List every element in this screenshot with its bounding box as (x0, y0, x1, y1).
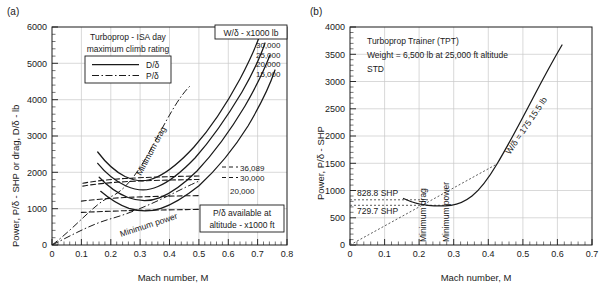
legend-title-line1: Turboprop - ISA day (90, 32, 167, 42)
y-tick-label: 0 (340, 240, 345, 250)
legend-title-line2: maximum climb rating (87, 44, 170, 54)
y-tick-label: 1000 (27, 204, 47, 214)
chart-panel-b: (b) Power, P/δ - SHP Mach number, M (303, 0, 606, 293)
panel-b-x-ticks (350, 239, 592, 245)
curve-power-required (404, 45, 563, 206)
panel-b-y-ticks (350, 27, 356, 245)
x-tick-label: 0.2 (413, 249, 426, 259)
x-tick-label: 0.1 (75, 249, 88, 259)
power-label: 30,000 (240, 174, 265, 183)
figure-container: (a) Power, P/δ - SHP or drag, D/δ - lb M… (0, 0, 606, 293)
y-tick-label: 4000 (325, 22, 345, 32)
drag-label: 30,000 (256, 41, 281, 50)
panel-a-y-tick-labels: 0 1000 2000 3000 4000 5000 6000 (27, 22, 47, 250)
title-line3: STD (367, 64, 384, 74)
y-tick-label: 5000 (27, 59, 47, 69)
panel-b-x-tick-labels: 0 0.1 0.2 0.3 0.4 0.5 0.6 0.7 (347, 249, 598, 259)
y-tick-label: 3000 (325, 77, 345, 87)
panel-a-x-tick-labels: 0 0.1 0.2 0.3 0.4 0.5 0.6 0.7 0.8 (49, 249, 293, 259)
panel-a-plot: 0 1000 2000 3000 4000 5000 6000 0 0.1 0.… (0, 0, 303, 270)
shp-upper-label: 828.8 SHP (357, 188, 398, 198)
y-tick-label: 1000 (325, 186, 345, 196)
panel-a-y-ticks (52, 27, 58, 245)
x-tick-label: 0.6 (551, 249, 564, 259)
y-tick-label: 2500 (325, 104, 345, 114)
panel-b-plot: 0 500 1000 1500 2000 2500 3000 3500 4000… (303, 0, 606, 270)
x-tick-label: 0.6 (222, 249, 235, 259)
x-tick-label: 0.7 (586, 249, 599, 259)
panel-a-legend: Turboprop - ISA day maximum climb rating… (85, 32, 171, 83)
panel-b-y-tick-labels: 0 500 1000 1500 2000 2500 3000 3500 4000 (325, 22, 345, 250)
x-tick-label: 0.1 (378, 249, 391, 259)
title-line2: Weight = 6,500 lb at 25,000 ft altitude (367, 50, 508, 60)
panel-a-power-note: P/δ available at altitude - x1000 ft (200, 205, 284, 232)
x-tick-label: 0.5 (517, 249, 530, 259)
curve-drag-30000 (98, 32, 261, 181)
panel-a-drag-curve-labels: 30,000 25,000 20,000 15,000 (256, 41, 281, 79)
x-tick-label: 0.5 (193, 249, 206, 259)
drag-label: 25,000 (256, 51, 281, 60)
y-tick-label: 0 (42, 240, 47, 250)
y-tick-label: 500 (330, 213, 345, 223)
legend-dash-label: P/δ (146, 71, 159, 81)
y-tick-label: 4000 (27, 95, 47, 105)
y-tick-label: 6000 (27, 22, 47, 32)
x-tick-label: 0 (49, 249, 54, 259)
x-tick-label: 0.8 (281, 249, 294, 259)
y-tick-label: 2000 (325, 131, 345, 141)
x-tick-label: 0.2 (105, 249, 118, 259)
weight-legend-label: W/δ - x1000 lb (224, 28, 279, 38)
annotation-minimum-power: Minimum power (441, 182, 451, 242)
x-tick-label: 0.3 (447, 249, 460, 259)
panel-a-x-axis-title: Mach number, M (48, 272, 298, 283)
y-tick-label: 3500 (325, 50, 345, 60)
power-note-line2: altitude - x1000 ft (209, 220, 275, 230)
chart-panel-a: (a) Power, P/δ - SHP or drag, D/δ - lb M… (0, 0, 303, 293)
shp-lower-label: 729.7 SHP (357, 206, 398, 216)
panel-b-x-axis-title: Mach number, M (351, 272, 601, 283)
x-tick-label: 0.4 (482, 249, 495, 259)
power-label: 36,089 (240, 164, 265, 173)
annotation-curve-weight: W/δ = 175 15.5 lb (503, 95, 549, 156)
power-label: 20,000 (230, 187, 255, 196)
panel-a-weight-legend: W/δ - x1000 lb (215, 25, 287, 39)
power-note-line1: P/δ available at (213, 208, 272, 218)
y-tick-label: 1500 (325, 159, 345, 169)
legend-solid-label: D/δ (146, 60, 160, 70)
panel-b-shp-callouts: 828.8 SHP 729.7 SHP (357, 188, 398, 216)
y-tick-label: 3000 (27, 131, 47, 141)
panel-a-x-ticks (52, 239, 287, 245)
y-tick-label: 2000 (27, 168, 47, 178)
x-tick-label: 0 (347, 249, 352, 259)
title-line1: Turboprop Trainer (TPT) (367, 36, 459, 46)
drag-label: 20,000 (256, 60, 281, 69)
panel-b-title-block: Turboprop Trainer (TPT) Weight = 6,500 l… (367, 36, 508, 74)
annotation-minimum-drag: Minimum drag (134, 124, 168, 176)
x-tick-label: 0.7 (251, 249, 264, 259)
annotation-minimum-drag: Minimum drag (418, 188, 428, 242)
x-tick-label: 0.3 (134, 249, 147, 259)
drag-label: 15,000 (256, 70, 281, 79)
x-tick-label: 0.4 (163, 249, 176, 259)
